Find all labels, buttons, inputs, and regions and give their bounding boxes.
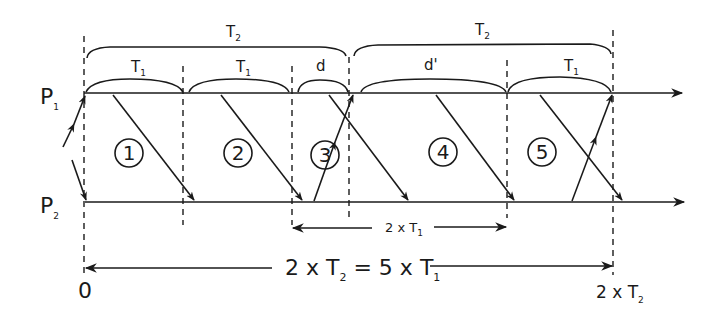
brace-t2-first xyxy=(87,47,346,58)
p1-label: P1 xyxy=(40,84,59,112)
interval-label-5: T1 xyxy=(563,57,579,77)
t2-label-2: T2 xyxy=(474,21,490,41)
circled-number-3: 3 xyxy=(319,143,332,167)
interval-label-dprime: d' xyxy=(424,56,438,74)
span-2xt1-label: 2 x T1 xyxy=(385,220,423,238)
axis-start-label: 0 xyxy=(78,278,92,303)
p2-label: P2 xyxy=(40,193,59,221)
interval-label-d: d xyxy=(316,57,326,75)
axis-end-label: 2 x T2 xyxy=(596,282,644,305)
t2-label-1: T2 xyxy=(225,23,241,43)
circled-number-4: 4 xyxy=(437,140,450,164)
interval-label-1: T1 xyxy=(130,58,146,78)
span-total-label: 2 x T2 = 5 x T1 xyxy=(285,255,440,284)
dashed-guides xyxy=(84,30,613,275)
circled-number-5: 5 xyxy=(536,140,549,164)
circled-number-1: 1 xyxy=(123,141,136,165)
brace-t2-second xyxy=(354,44,611,56)
interval-label-2: T1 xyxy=(235,58,251,78)
circled-number-2: 2 xyxy=(232,141,245,165)
timing-diagram: P1 P2 T2 T2 T1 T1 d d' T1 1 2 3 4 5 2 x … xyxy=(0,0,718,316)
